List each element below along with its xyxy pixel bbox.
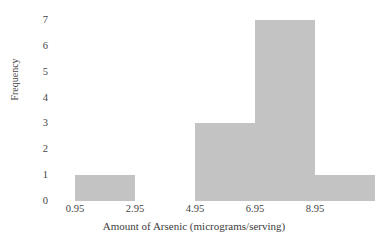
histogram-figure: 01234567 Frequency 0.952.954.956.958.95 … bbox=[0, 0, 388, 243]
x-axis-tick-label: 2.95 bbox=[105, 203, 165, 215]
histogram-bar bbox=[315, 175, 375, 201]
histogram-bar bbox=[255, 20, 315, 201]
x-axis-tick-label: 0.95 bbox=[45, 203, 105, 215]
x-axis-tick-label: 8.95 bbox=[285, 203, 345, 215]
x-axis-title: Amount of Arsenic (micrograms/serving) bbox=[0, 220, 388, 232]
y-axis-tick-label: 3 bbox=[8, 118, 48, 128]
x-axis-tick-label: 6.95 bbox=[225, 203, 285, 215]
histogram-bar bbox=[195, 123, 255, 201]
y-axis-tick-label: 7 bbox=[8, 15, 48, 25]
y-axis-title: Frequency bbox=[9, 40, 20, 120]
x-axis-tick-label: 4.95 bbox=[165, 203, 225, 215]
y-axis-tick-label: 1 bbox=[8, 170, 48, 180]
y-axis-tick-label: 0 bbox=[8, 196, 48, 206]
x-axis-tick-labels: 0.952.954.956.958.95 bbox=[60, 203, 360, 217]
y-axis-tick-label: 2 bbox=[8, 144, 48, 154]
histogram-bar bbox=[75, 175, 135, 201]
plot-area bbox=[60, 20, 360, 201]
